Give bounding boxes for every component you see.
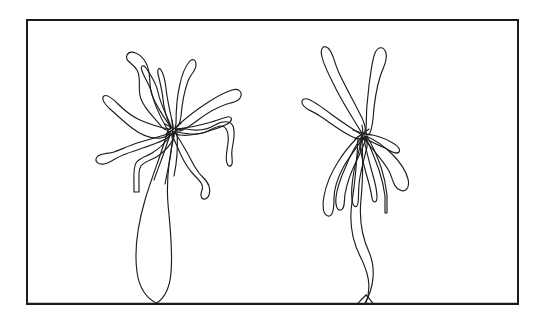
specimen-left-group (96, 52, 241, 303)
specimen-right-group (302, 47, 409, 304)
left-rosette-centre-knot-3 (172, 120, 173, 138)
right-stem-fork-left (358, 295, 366, 303)
left-leaf-05-upper-right-broad (175, 89, 241, 131)
right-stem-strand-outer (351, 138, 369, 303)
left-taproot-outline (136, 130, 175, 303)
plant-drawing-canvas (0, 0, 545, 326)
figure-root: Two plant outline drawings Black ink con… (0, 0, 545, 326)
left-leaf-09-left-wavy-blunt (103, 95, 169, 138)
right-leaf-02-vertical-hooked (366, 48, 386, 135)
left-leaf-07-right-zigzag (176, 122, 234, 166)
left-stem-strand-c (174, 132, 177, 176)
left-leaf-04-vertical-hook (175, 60, 196, 128)
right-leaf-08-right-mid (364, 134, 400, 153)
right-leaf-04-lower-left-drooping (323, 136, 362, 216)
left-leaf-01-wavy-upper-left (126, 52, 170, 130)
